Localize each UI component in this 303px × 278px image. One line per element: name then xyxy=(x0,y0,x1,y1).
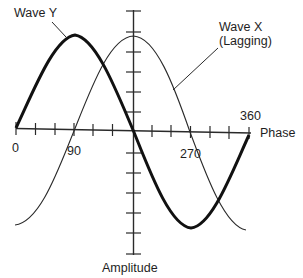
wave-y-label: Wave Y xyxy=(14,6,57,20)
x-axis-label: Phase xyxy=(260,126,295,140)
wave-y-leader xyxy=(52,22,66,37)
wave-x-curve xyxy=(15,36,246,230)
y-axis-label: Amplitude xyxy=(102,261,158,275)
wave-y-curve xyxy=(16,35,249,228)
tick-label-90: 90 xyxy=(67,144,81,158)
tick-label-0: 0 xyxy=(12,141,19,155)
tick-label-360: 360 xyxy=(240,109,261,123)
wave-x-leader xyxy=(173,48,218,90)
wave-x-lagging-label: (Lagging) xyxy=(219,34,272,48)
wave-x-label: Wave X xyxy=(219,20,262,34)
tick-label-270: 270 xyxy=(180,147,201,161)
